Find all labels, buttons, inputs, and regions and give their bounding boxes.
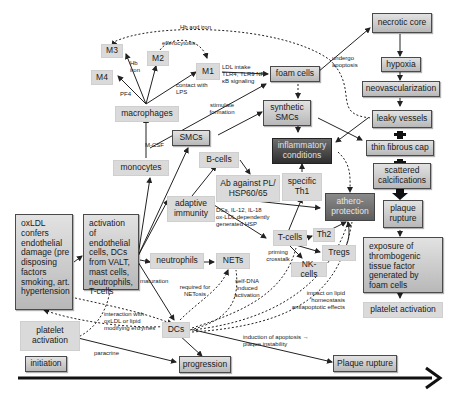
edge-label-hb-iron: Hb iron	[130, 60, 146, 74]
stage-plaque-rupture: Plaque rupture	[333, 355, 397, 372]
edge-label-contact-lps: contact with LPS	[176, 82, 208, 96]
node-dcs: DCs	[162, 322, 190, 338]
edge-label-self-dna: self-DNA induced activation	[232, 278, 262, 299]
node-t-cells: T-cells	[273, 230, 307, 246]
node-hypoxia: hypoxia	[381, 57, 421, 72]
stage-progression: progression	[179, 356, 231, 373]
node-exposure-tissue-factor: exposure of thrombogenic tissue factor g…	[363, 237, 443, 293]
edge-label-hb-and-iron: Hb and iron	[180, 24, 211, 31]
node-monocytes: monocytes	[113, 160, 169, 176]
node-neovascularization: neovascularization	[362, 81, 440, 97]
node-ab-against-pl-hsp: Ab against PL/ HSP60/65	[216, 175, 280, 202]
node-athero-protection: athero-protection	[325, 193, 375, 221]
node-m1: M1	[196, 63, 220, 80]
node-nk-cells: NK-cells	[291, 262, 327, 277]
edge-label-stimulate-formation: stimulate formation	[205, 102, 239, 116]
node-thin-fibrous-cap: thin fibrous cap	[366, 140, 434, 156]
stage-initiation: initiation	[25, 356, 67, 372]
node-oxldl-endothelial-damage: oxLDL confers endothelial damage (pre di…	[15, 214, 73, 310]
node-b-cells: B-cells	[199, 152, 239, 168]
node-neutrophils: neutrophils	[150, 253, 204, 269]
node-smcs: SMCs	[172, 130, 210, 146]
edge-label-maturation: maturation	[140, 278, 168, 285]
node-nets: NETs	[216, 253, 250, 269]
diagram-canvas: M3 M2 M4 M1 macrophages foam cells necro…	[0, 0, 452, 394]
node-adaptive-immunity: adaptive immunity	[167, 196, 215, 222]
edge-label-m-csf: M-CSF	[145, 142, 164, 149]
edge-label-undergo-apoptosis: undergo apoptosis	[332, 55, 368, 69]
node-macrophages: macrophages	[115, 106, 179, 122]
edge-label-paracrine: paracrine	[94, 350, 119, 357]
node-leaky-vessels: leaky vessels	[372, 110, 432, 128]
node-th2: Th2	[313, 228, 335, 242]
edge-label-efferocytosis: efferocytosis	[162, 40, 196, 47]
node-platelet-activation-left: platelet activation	[20, 321, 80, 351]
edge-label-induction-apoptosis: induction of apoptosis → plaque instabil…	[243, 334, 323, 348]
edge-label-dcs-il12: DCs, IL-12, IL-18 ox-LDL dependently gen…	[216, 207, 270, 228]
node-m4: M4	[91, 70, 113, 85]
node-foam-cells: foam cells	[270, 66, 320, 82]
edge-label-pf4: PF4	[120, 91, 131, 98]
node-inflammatory-conditions: inflammatory conditions	[272, 138, 332, 164]
node-plaque-rupture-right: plaque rupture	[383, 200, 423, 228]
node-specific-th1: specific Th1	[282, 173, 322, 201]
edge-label-ldl-intake: LDL intake TLR4, TLR9 NF-κB signaling	[222, 64, 268, 85]
edge-label-impact-lipid: impact on lipid homeostasis antiapoptoti…	[285, 290, 345, 311]
edge-label-priming-crosstalk: priming crosstalk	[266, 249, 290, 263]
edge-label-required-netosis: required for NETosis	[176, 284, 214, 298]
node-m2: M2	[147, 51, 169, 66]
node-m3: M3	[101, 44, 123, 58]
node-necrotic-core: necrotic core	[372, 13, 432, 33]
node-platelet-activation-right: platelet activation	[363, 302, 443, 318]
node-synthetic-smcs: synthetic SMCs	[263, 100, 311, 126]
node-tregs: Tregs	[322, 245, 356, 261]
edge-label-interaction-oxldl: interaction with oxLDL or lipid modifyin…	[104, 311, 160, 332]
node-scattered-calcifications: scattered calcifications	[373, 163, 431, 189]
node-activation-endothelial-cells: activation of endothelial cells, DCs fro…	[83, 214, 139, 290]
